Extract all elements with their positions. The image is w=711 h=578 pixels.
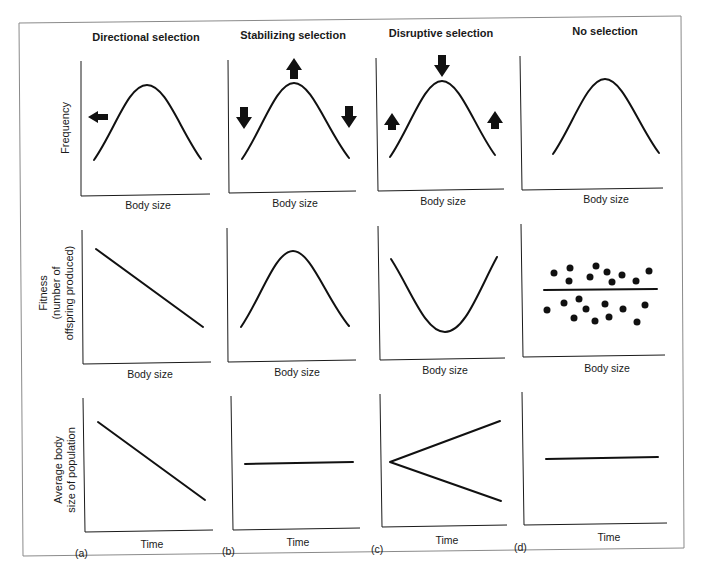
- xlabel-d-frequency: Body size: [583, 193, 629, 205]
- axes-c-average: [380, 394, 507, 527]
- axes-a-frequency: [81, 61, 210, 196]
- panel-label-d: (d): [514, 541, 527, 553]
- arrow-down-icon: [341, 106, 357, 128]
- xlabel-b-fitness: Body size: [274, 366, 320, 378]
- curve-a-frequency: [94, 85, 201, 160]
- xlabel-b-frequency: Body size: [272, 197, 318, 209]
- xlabel-b-average: Time: [287, 536, 310, 548]
- panel-label-c: (c): [371, 543, 383, 555]
- xlabel-d-fitness: Body size: [584, 362, 630, 374]
- curve-c-average: [390, 421, 501, 501]
- selection-figure: Directional selection Stabilizing select…: [0, 0, 711, 578]
- xlabel-c-frequency: Body size: [420, 195, 466, 207]
- scatter-points-d-fitness: [544, 263, 653, 326]
- xlabel-a-fitness: Body size: [127, 368, 173, 380]
- ylabel-fitness-2: (number of: [50, 265, 62, 319]
- arrow-up-icon: [487, 111, 503, 129]
- curve-d-frequency: [553, 79, 659, 154]
- panel-label-a: (a): [75, 547, 88, 559]
- title-disruptive: Disruptive selection: [389, 27, 494, 39]
- axes-c-fitness: [378, 226, 505, 360]
- title-no-selection: No selection: [572, 25, 638, 37]
- arrow-up-icon: [384, 113, 400, 130]
- arrow-up-icon: [286, 58, 302, 79]
- arrow-down-icon: [236, 107, 252, 129]
- panel-label-b: (b): [222, 545, 235, 557]
- xlabel-c-average: Time: [436, 534, 459, 546]
- title-stabilizing: Stabilizing selection: [240, 29, 346, 41]
- axes-a-average: [83, 398, 213, 532]
- curve-c-fitness: [391, 257, 497, 332]
- curve-a-fitness: [96, 249, 203, 327]
- xlabel-c-fitness: Body size: [422, 364, 468, 376]
- curve-d-average: [546, 457, 658, 459]
- ylabel-fitness-1: Fitness: [37, 275, 49, 311]
- ylabel-frequency: Frequency: [59, 102, 71, 154]
- arrow-down-icon: [434, 55, 450, 77]
- curve-d-fitness-line: [544, 289, 657, 290]
- curve-a-average: [98, 422, 205, 500]
- xlabel-d-average: Time: [598, 531, 621, 543]
- curve-b-frequency: [242, 83, 349, 159]
- curve-c-frequency: [390, 81, 495, 157]
- ylabel-fitness-3: offspring produced): [63, 246, 75, 341]
- curve-b-average: [245, 462, 353, 464]
- curve-b-fitness: [241, 251, 349, 327]
- xlabel-a-frequency: Body size: [125, 199, 171, 211]
- ylabel-average-2: size of population: [65, 427, 77, 513]
- ylabel-average-1: Average body: [52, 436, 64, 504]
- axes-a-fitness: [82, 230, 211, 364]
- arrow-left-icon: [88, 111, 108, 123]
- axes-b-frequency: [228, 60, 356, 193]
- axes-b-fitness: [227, 228, 356, 362]
- title-directional: Directional selection: [92, 31, 200, 43]
- xlabel-a-average: Time: [141, 538, 164, 550]
